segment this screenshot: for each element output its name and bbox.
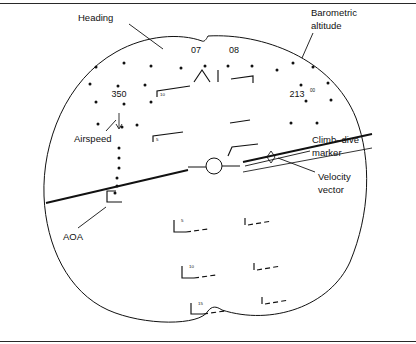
callout-airspeed: Airspeed <box>74 120 116 144</box>
callout-velocity-vector-label-line1: Velocity <box>318 171 351 182</box>
pitch-ladder-zenith <box>194 70 218 82</box>
pitch-ladder-rung-right-mid <box>230 120 250 123</box>
barometric-altitude-value: 213 <box>289 89 304 99</box>
callout-velocity-vector-label-line2: vector <box>318 184 344 195</box>
callout-climb-dive-label-line2: marker <box>312 147 342 158</box>
pitch-ladder-rung-left-10: 10 <box>157 86 190 97</box>
pitch-ladder-rung-right-low <box>228 144 258 156</box>
callout-heading-label: Heading <box>78 12 113 23</box>
callout-barometric-altitude-label-line2: altitude <box>311 20 342 31</box>
callout-barometric-altitude-label-line1: Barometric <box>311 7 357 18</box>
pitch-label-up-5: 5 <box>156 137 159 142</box>
callout-climb-dive-label-line1: Climb–dive <box>312 134 359 145</box>
heading-tick-08: 08 <box>229 45 239 55</box>
pitch-ladder-down-5-left: 5 <box>174 218 208 232</box>
pitch-ladder-down-10-right <box>254 263 281 270</box>
pitch-label-down-10: 10 <box>189 264 194 269</box>
hud-diagram-stage: 07 08 350 213 00 10 5 <box>0 0 416 344</box>
heading-tick-07: 07 <box>191 45 201 55</box>
pitch-ladder-rung-right-top <box>231 76 253 83</box>
callout-aoa-label: AOA <box>63 231 84 242</box>
hud-diagram-svg: 07 08 350 213 00 10 5 <box>0 0 416 344</box>
callout-airspeed-label: Airspeed <box>74 133 112 144</box>
pitch-label-up-10: 10 <box>160 92 165 97</box>
heading-tick-07-label: 07 <box>191 45 201 55</box>
callout-aoa: AOA <box>63 207 106 242</box>
airspeed-dot-column <box>114 113 123 195</box>
pitch-label-down-5: 5 <box>181 218 184 223</box>
pitch-ladder-down-15-left: 15 <box>191 301 225 314</box>
barometric-altitude-superscript: 00 <box>310 88 316 93</box>
callout-barometric-altitude: Barometric altitude <box>302 7 357 58</box>
pitch-ladder-down-15-right <box>262 297 289 304</box>
airspeed-value: 350 <box>111 89 126 99</box>
pitch-ladder-rung-left-5: 5 <box>153 132 183 142</box>
pitch-label-down-15: 15 <box>198 301 203 306</box>
callout-heading: Heading <box>78 12 163 49</box>
heading-tick-08-label: 08 <box>229 45 239 55</box>
pitch-ladder-down-10-left: 10 <box>182 264 216 278</box>
pitch-ladder-down-5-right <box>245 218 272 225</box>
figure-frame <box>0 4 416 342</box>
climb-dive-marker <box>188 158 240 174</box>
